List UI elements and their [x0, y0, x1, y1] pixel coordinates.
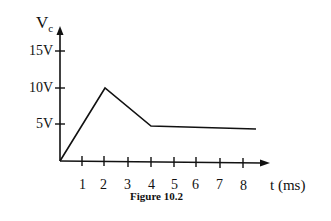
y-axis-arrow-icon — [57, 26, 64, 35]
x-tick-label-1: 1 — [79, 178, 86, 192]
y-axis-label: Vc — [36, 14, 53, 34]
series-vc-line — [60, 88, 256, 161]
y-tick-label-10v: 10V — [13, 81, 53, 95]
y-tick-label-15v: 15V — [13, 44, 53, 58]
x-tick-label-7: 7 — [216, 178, 223, 192]
x-tick-label-2: 2 — [100, 178, 107, 192]
x-tick-label-8: 8 — [240, 179, 247, 193]
y-tick-label-5v: 5V — [13, 117, 53, 131]
x-axis-label: t (ms) — [270, 178, 305, 193]
x-tick-label-6: 6 — [192, 178, 199, 192]
figure-caption: Figure 10.2 — [130, 190, 183, 202]
x-axis-arrow-icon — [260, 160, 270, 167]
x-axis — [60, 161, 262, 163]
